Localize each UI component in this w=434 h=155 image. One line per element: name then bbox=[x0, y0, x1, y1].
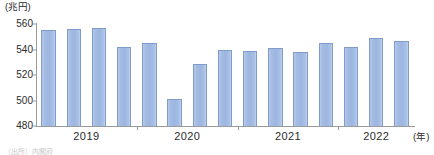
y-axis-unit-label: (兆円) bbox=[5, 1, 31, 12]
y-tick-label: 540 bbox=[16, 45, 33, 55]
y-tick-label: 520 bbox=[16, 70, 33, 80]
source-note: （出所）内閣府 bbox=[4, 148, 53, 155]
x-group-tick bbox=[338, 126, 339, 130]
bar bbox=[117, 47, 132, 126]
y-tick-label: 500 bbox=[16, 96, 33, 106]
y-tick-label: 480 bbox=[16, 121, 33, 131]
bar bbox=[369, 38, 384, 126]
x-group-label-2021: 2021 bbox=[275, 130, 301, 143]
bar bbox=[92, 28, 107, 126]
bar bbox=[167, 99, 182, 126]
bar bbox=[344, 47, 359, 126]
bar bbox=[394, 41, 409, 126]
bar bbox=[293, 52, 308, 126]
bar bbox=[218, 50, 233, 127]
x-group-tick bbox=[137, 126, 138, 130]
x-group-label-2020: 2020 bbox=[174, 130, 200, 143]
bar bbox=[193, 64, 208, 126]
x-group-label-2022: 2022 bbox=[363, 130, 389, 143]
bar bbox=[243, 51, 258, 126]
quarterly-bar-chart: (兆円) 560540520500480 2019202020212022 (年… bbox=[0, 0, 434, 155]
y-tick-label: 560 bbox=[16, 19, 33, 29]
bar bbox=[142, 43, 157, 126]
bar bbox=[41, 30, 56, 126]
plot-area bbox=[36, 24, 414, 126]
bar bbox=[319, 43, 334, 126]
x-axis-line bbox=[36, 126, 415, 127]
bar bbox=[67, 29, 82, 126]
x-group-label-2019: 2019 bbox=[73, 130, 99, 143]
bar bbox=[268, 48, 283, 126]
x-axis-unit-label: (年) bbox=[413, 131, 429, 143]
x-group-tick bbox=[238, 126, 239, 130]
